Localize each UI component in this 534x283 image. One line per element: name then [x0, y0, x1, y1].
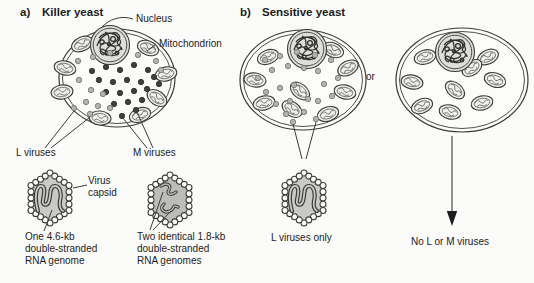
l-virus-dot — [83, 99, 88, 104]
m-virus-dot — [96, 77, 101, 82]
l-virus-dot — [287, 98, 292, 103]
l-virus-dot — [100, 91, 105, 96]
l-virus-dot — [312, 52, 317, 57]
m-virus-dot — [110, 79, 115, 84]
l-genome-caption-line2: double-stranded — [25, 243, 97, 254]
l-virus-capsid-b — [282, 170, 326, 226]
m-genome-caption-line3: RNA genomes — [137, 255, 201, 266]
l-viruses-leader-1 — [45, 111, 74, 148]
l-genome-caption-line3: RNA genome — [25, 255, 85, 266]
m-virus-dot — [117, 67, 122, 72]
m-virus-dot — [138, 79, 143, 84]
m-virus-dot — [156, 81, 161, 86]
l-virus-dot — [294, 49, 299, 54]
or-conjunction: or — [366, 71, 376, 82]
panel-a: a) Killer yeast Nucleus Mitochondrion L … — [16, 6, 226, 266]
panel-b-title: Sensitive yeast — [262, 6, 345, 18]
l-virus-dot — [277, 85, 282, 90]
l-virus-dot — [76, 77, 81, 82]
l-virus-dot — [95, 103, 100, 108]
figure-killer-vs-sensitive-yeast: a) Killer yeast Nucleus Mitochondrion L … — [0, 0, 534, 283]
l-virus-dot — [315, 68, 320, 73]
l-virus-dot — [291, 82, 296, 87]
m-virus-dot — [131, 62, 136, 67]
l-virus-dot — [329, 93, 334, 98]
l-genome-caption-line1: One 4.6-kb — [25, 231, 75, 242]
virus-capsid-leader-line — [73, 185, 87, 188]
l-virus-dot — [75, 58, 80, 63]
nucleus-icon — [91, 26, 130, 65]
m-virus-capsid — [148, 172, 192, 228]
m-virus-dot — [103, 64, 108, 69]
l-virus-dot — [158, 67, 163, 72]
virus-capsid-icon — [148, 172, 192, 228]
sensitive-yeast-cell-with-l — [240, 30, 366, 131]
l-virus-capsid — [28, 170, 72, 226]
l-virus-dot — [283, 111, 288, 116]
nucleus-icon — [436, 33, 475, 72]
panel-a-title: Killer yeast — [42, 6, 104, 18]
m-virus-dot — [151, 74, 156, 79]
l-virus-dot — [301, 65, 306, 70]
panel-b: b) Sensitive yeast or L viruses only No — [240, 6, 528, 247]
l-virus-dot — [153, 58, 158, 63]
m-virus-dot — [119, 113, 124, 118]
l-virus-dot — [87, 111, 92, 116]
m-virus-dot — [145, 67, 150, 72]
l-virus-dot — [273, 101, 278, 106]
l-virus-dot — [313, 116, 318, 121]
l-virus-dot — [107, 105, 112, 110]
l-virus-dot — [328, 57, 333, 62]
m-virus-dot — [139, 97, 144, 102]
virus-capsid-label-line2: capsid — [88, 187, 117, 198]
m-virus-dot — [89, 68, 94, 73]
m-genome-caption-line2: double-stranded — [137, 243, 209, 254]
l-virus-dot — [269, 67, 274, 72]
l-virus-dot — [321, 81, 326, 86]
l-viruses-only-caption: L viruses only — [271, 232, 332, 243]
l-virus-dot — [107, 50, 112, 55]
result-arrow-head — [447, 211, 457, 226]
panel-a-label: a) — [20, 6, 30, 18]
l-virus-dot — [301, 109, 306, 114]
l-virus-dot — [290, 119, 295, 124]
diagram-canvas: a) Killer yeast Nucleus Mitochondrion L … — [0, 0, 534, 283]
l-viruses-label: L viruses — [16, 147, 56, 158]
l-virus-dot — [315, 98, 320, 103]
m-genome-caption-line1: Two identical 1.8-kb — [137, 231, 226, 242]
l-virus-dot — [90, 54, 95, 59]
m-virus-dot — [133, 107, 138, 112]
l-virus-dot — [255, 75, 260, 80]
l-virus-dot — [277, 53, 282, 58]
l-virus-dot — [285, 63, 290, 68]
m-virus-dot — [117, 90, 122, 95]
sensitive-yeast-cell-cured — [396, 28, 528, 132]
m-viruses-label: M viruses — [133, 147, 176, 158]
l-virus-dot — [262, 57, 267, 62]
nucleus-icon — [288, 30, 327, 69]
l-virus-dot — [88, 87, 93, 92]
l-virus-dot — [71, 105, 76, 110]
l-virus-dot — [135, 52, 140, 57]
l-virus-dot — [263, 89, 268, 94]
panel-b-label: b) — [240, 6, 251, 18]
no-viruses-caption: No L or M viruses — [411, 236, 489, 247]
mitochondrion-label: Mitochondrion — [159, 38, 222, 49]
virus-capsid-label-line1: Virus — [88, 175, 111, 186]
l-virus-dot — [335, 75, 340, 80]
m-virus-dot — [131, 88, 136, 93]
m-virus-dot — [125, 99, 130, 104]
m-virus-dot — [144, 86, 149, 91]
m-virus-dot — [124, 77, 129, 82]
nucleus-label: Nucleus — [136, 13, 172, 24]
l-virus-dot — [305, 96, 310, 101]
